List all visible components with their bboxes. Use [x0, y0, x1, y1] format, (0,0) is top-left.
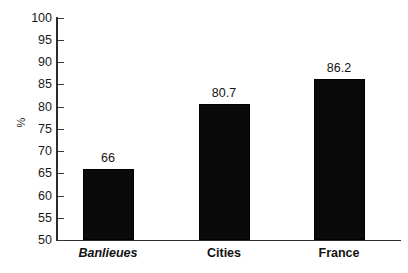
y-tick-100: [58, 18, 64, 19]
y-tick-label-95: 95: [26, 34, 52, 47]
y-tick-85: [58, 84, 64, 85]
y-tick-90: [58, 62, 64, 63]
category-label-france: France: [294, 247, 384, 260]
y-tick-50: [58, 240, 64, 241]
y-tick-75: [58, 129, 64, 130]
category-label-banlieues: Banlieues: [63, 247, 153, 260]
y-tick-95: [58, 40, 64, 41]
bar-cities[interactable]: [199, 104, 250, 241]
y-tick-70: [58, 151, 64, 152]
y-tick-65: [58, 173, 64, 174]
category-label-cities: Cities: [179, 247, 269, 260]
y-tick-60: [58, 196, 64, 197]
bar-chart: % 100 95 90 85 80 75 70 65 60 55 50 66 8…: [0, 0, 408, 273]
y-tick-label-90: 90: [26, 56, 52, 69]
bar-value-banlieues: 66: [78, 152, 138, 165]
y-tick-label-60: 60: [26, 190, 52, 203]
y-tick-label-75: 75: [26, 123, 52, 136]
y-tick-label-50: 50: [26, 234, 52, 247]
y-tick-label-85: 85: [26, 78, 52, 91]
bar-value-cities: 80.7: [194, 87, 254, 100]
y-tick-label-80: 80: [26, 101, 52, 114]
y-tick-label-65: 65: [26, 167, 52, 180]
y-tick-label-70: 70: [26, 145, 52, 158]
y-tick-label-100: 100: [26, 12, 52, 25]
y-tick-80: [58, 107, 64, 108]
y-tick-55: [58, 218, 64, 219]
bar-france[interactable]: [314, 79, 365, 240]
bar-banlieues[interactable]: [83, 169, 134, 240]
y-tick-label-55: 55: [26, 212, 52, 225]
bar-value-france: 86.2: [309, 62, 369, 75]
